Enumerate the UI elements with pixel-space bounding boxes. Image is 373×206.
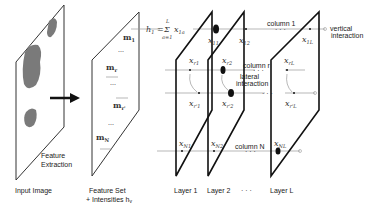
feature-extraction-arrow bbox=[50, 93, 80, 103]
node-xr'1 bbox=[198, 92, 200, 94]
lateral-arc-layer2 bbox=[222, 75, 229, 91]
svg-text:a=1: a=1 bbox=[162, 34, 172, 40]
feature-blob-bottom bbox=[24, 108, 36, 127]
node-xrL bbox=[286, 69, 288, 71]
svg-text:Σ: Σ bbox=[163, 25, 170, 34]
node-xN2 bbox=[213, 150, 215, 152]
svg-text:=: = bbox=[157, 25, 164, 34]
feature-blob-large bbox=[23, 45, 41, 89]
node-x12 bbox=[245, 28, 247, 30]
layer-2-label: Layer 2 bbox=[207, 187, 230, 195]
feature-dots-2: ... bbox=[110, 79, 116, 86]
svg-text:xN2: xN2 bbox=[211, 139, 223, 149]
feature-blob-small bbox=[47, 18, 57, 37]
feature-extraction-label-1: Feature bbox=[41, 152, 65, 159]
svg-text:xr'L: xr'L bbox=[285, 99, 297, 109]
feature-set-caption-1: Feature Set bbox=[89, 187, 126, 194]
svg-text:xr'2: xr'2 bbox=[222, 99, 233, 109]
svg-text:xr2: xr2 bbox=[222, 56, 232, 66]
vertical-label-1: vertical bbox=[330, 25, 353, 32]
layer-1-label: Layer 1 bbox=[174, 187, 197, 195]
layer-L-label: Layer L bbox=[270, 187, 293, 195]
svg-text:xrL: xrL bbox=[284, 56, 295, 66]
input-image-caption: Input Image bbox=[15, 187, 52, 195]
lateral-arc-layerL bbox=[287, 74, 292, 92]
feature-extraction-label-2: Extraction bbox=[41, 161, 72, 168]
svg-text:xr1: xr1 bbox=[189, 56, 199, 66]
node-x11 bbox=[213, 25, 219, 34]
node-xr'L bbox=[293, 92, 295, 94]
feature-m1: m1 bbox=[123, 32, 135, 43]
node-x1L bbox=[309, 28, 311, 30]
feature-dots-3: ... bbox=[108, 119, 114, 126]
node-xN1 bbox=[181, 150, 183, 152]
lateral-arc-layer1 bbox=[190, 74, 197, 92]
rowN-dots: · · · bbox=[245, 148, 256, 155]
node-xr'2 bbox=[228, 89, 234, 97]
node-xr2 bbox=[221, 66, 226, 74]
feature-mr: mr bbox=[106, 62, 117, 73]
svg-text:x1L: x1L bbox=[302, 35, 314, 45]
feature-connectors bbox=[100, 29, 160, 149]
svg-text:x11: x11 bbox=[208, 36, 219, 46]
row-connectors bbox=[157, 29, 325, 151]
intensity-formula: h1 = Σ L a=1 x1a bbox=[146, 18, 185, 40]
svg-text:xNL: xNL bbox=[274, 139, 287, 149]
diagram-canvas: Feature Extraction Input Image m1 ... mr… bbox=[0, 0, 373, 206]
lateral-label-1: lateral bbox=[240, 73, 260, 80]
svg-text:xN1: xN1 bbox=[179, 139, 191, 149]
node-xr1 bbox=[189, 69, 191, 71]
vertical-label-2: interaction bbox=[331, 32, 363, 39]
feature-set-caption-2: + Intensities hv bbox=[86, 196, 132, 204]
svg-text:h1: h1 bbox=[146, 25, 154, 35]
svg-text:xr'1: xr'1 bbox=[189, 99, 200, 109]
layer-ellipsis: · · · bbox=[241, 187, 252, 194]
row1-dots: · · · bbox=[275, 26, 286, 33]
lateral-label-2: interaction bbox=[236, 80, 268, 87]
feature-dots-1: ... bbox=[118, 46, 124, 53]
svg-text:L: L bbox=[165, 18, 170, 24]
feature-mr-prime: mr' bbox=[113, 100, 126, 111]
svg-text:x1a: x1a bbox=[174, 25, 185, 35]
rowr-prime-dots: · · · bbox=[262, 90, 273, 97]
feature-mN: mN bbox=[96, 132, 109, 143]
